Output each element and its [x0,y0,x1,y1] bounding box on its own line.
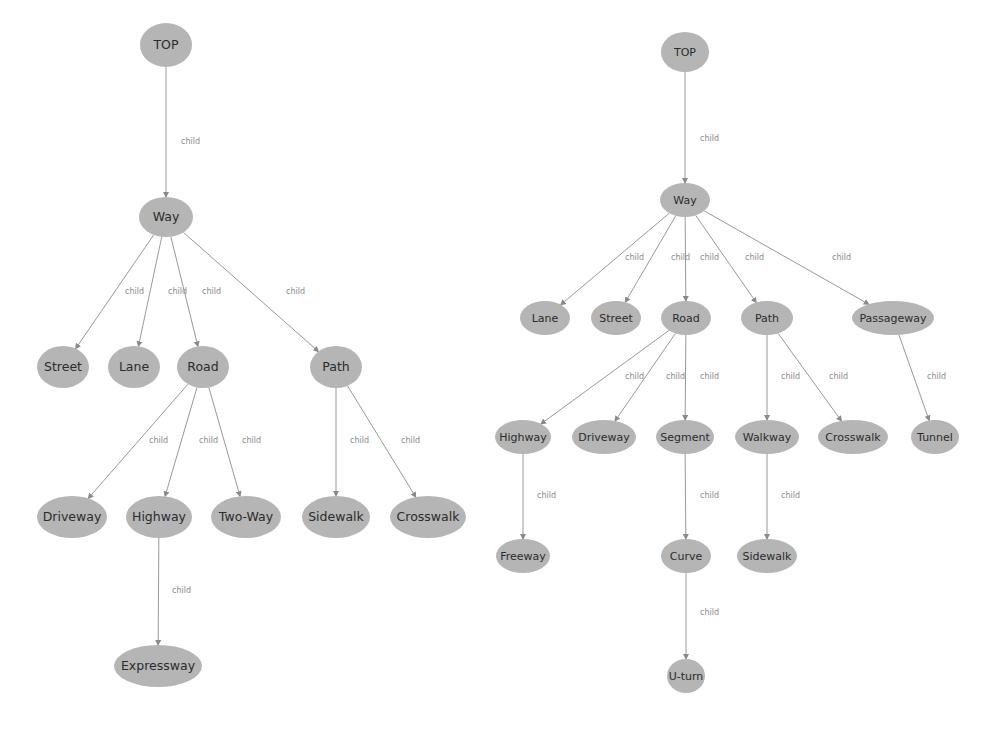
node-highway: Highway [495,420,551,454]
node-label: Path [755,312,779,325]
node-label: Path [322,359,349,374]
node-label: Tunnel [916,431,953,444]
edge-label: child [181,137,200,146]
node-path: Path [741,301,793,335]
node-curve: Curve [661,539,711,573]
edge-label: child [286,287,305,296]
edge-label: child [927,372,946,381]
node-label: Lane [532,312,559,325]
edge-way-to-road [685,217,686,301]
node-tunnel: Tunnel [911,420,959,454]
node-label: Crosswalk [825,431,881,444]
edge-label: child [829,372,848,381]
node-sidewalk: Sidewalk [737,539,797,573]
node-label: Segment [660,431,710,444]
node-label: Lane [119,359,150,374]
diagram-canvas: childchildchildchildchildchildchildchild… [0,0,987,731]
node-freeway: Freeway [496,539,550,573]
edge-road-to-segment [685,335,686,420]
edge-label: child [149,436,168,445]
edge-label: child [781,491,800,500]
edge-label: child [199,436,218,445]
node-walkway: Walkway [735,420,799,454]
node-crosswalk: Crosswalk [818,420,888,454]
node-label: Sidewalk [308,509,364,524]
node-highway: Highway [126,496,192,538]
node-label: U-turn [669,670,704,683]
edge-label: child [125,287,144,296]
edge-label: child [172,586,191,595]
node-crosswalk: Crosswalk [390,496,466,538]
node-road: Road [661,301,711,335]
edge-label: child [700,253,719,262]
node-label: TOP [673,46,696,59]
edge-label: child [202,287,221,296]
edge-label: child [671,253,690,262]
node-driveway: Driveway [572,420,636,454]
edge-label: child [242,436,261,445]
node-label: Passageway [859,312,927,325]
node-path: Path [310,346,362,388]
node-way: Way [660,183,710,217]
left-tree: childchildchildchildchildchildchildchild… [37,23,466,687]
edge-label: child [700,608,719,617]
node-label: Street [44,359,82,374]
node-label: Freeway [500,550,546,563]
node-label: Expressway [121,658,196,673]
edge-label: child [832,253,851,262]
node-passageway: Passageway [852,301,934,335]
edge-passageway-to-tunnel [899,335,929,421]
node-expressway: Expressway [114,645,202,687]
node-street: Street [591,301,641,335]
edge-label: child [401,436,420,445]
node-segment: Segment [656,420,714,454]
node-top: TOP [140,23,192,67]
node-label: Driveway [43,509,102,524]
node-street: Street [37,346,89,388]
node-label: Street [599,312,633,325]
node-label: TOP [152,37,178,52]
node-label: Crosswalk [397,509,461,524]
edge-highway-to-expressway [158,538,159,645]
right-tree: childchildchildchildchildchildchildchild… [495,32,959,693]
node-two-way: Two-Way [211,496,281,538]
node-label: Sidewalk [743,550,793,563]
node-driveway: Driveway [37,496,107,538]
edge-label: child [700,372,719,381]
edge-segment-to-curve [685,454,686,539]
node-way: Way [139,197,193,237]
edge-label: child [745,253,764,262]
edge-way-to-lane [561,213,670,305]
edge-road-to-driveway [88,384,188,498]
node-label: Driveway [578,431,630,444]
edge-label: child [700,491,719,500]
node-top: TOP [661,32,709,72]
edge-label: child [781,372,800,381]
node-label: Curve [670,550,703,563]
node-label: Way [153,209,180,224]
edge-label: child [350,436,369,445]
node-label: Road [672,312,700,325]
node-lane: Lane [520,301,570,335]
node-lane: Lane [108,346,160,388]
edge-label: child [537,491,556,500]
edge-label: child [625,372,644,381]
edge-label: child [625,253,644,262]
edge-label: child [666,372,685,381]
node-label: Road [187,359,218,374]
node-u-turn: U-turn [667,659,705,693]
node-label: Walkway [743,431,792,444]
node-label: Highway [499,431,547,444]
edge-road-to-highway [165,387,197,496]
node-sidewalk: Sidewalk [302,496,370,538]
node-road: Road [177,346,229,388]
edge-label: child [700,134,719,143]
edge-road-to-highway [541,330,669,423]
node-label: Two-Way [218,509,274,524]
taxonomy-trees-svg: childchildchildchildchildchildchildchild… [0,0,987,731]
node-label: Way [673,194,697,207]
node-label: Highway [132,509,187,524]
